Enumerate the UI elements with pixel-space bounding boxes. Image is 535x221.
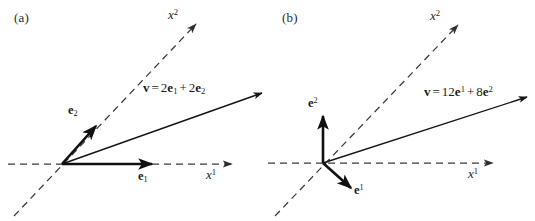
panel-a-diagram	[0, 0, 267, 221]
vector-v-line	[62, 93, 262, 164]
axis-label-x2: x2	[430, 9, 440, 22]
vector-equation-a: v=2e1+2e2	[143, 81, 205, 96]
basis-label-e1: e1	[354, 184, 364, 197]
basis-label-e2-sub: 2	[74, 109, 78, 118]
vector-v-line	[323, 97, 527, 163]
plus-sign: +	[465, 84, 476, 99]
vector-symbol-v: v	[143, 80, 150, 95]
basis-label-e1-sup: 1	[360, 183, 364, 192]
basis-label-e2-sup: 2	[314, 96, 318, 105]
axis-label-x1-sup: 1	[474, 166, 478, 176]
vector-equation-b: v=12e1+8e2	[424, 85, 493, 98]
vector-basis-figure: (a)	[0, 0, 535, 221]
basis-label-e2: e2	[68, 104, 78, 119]
basis-label-e1-sub: 1	[144, 175, 148, 184]
axis-label-x2: x2	[168, 8, 178, 21]
axis-label-x1: x1	[206, 168, 216, 181]
axis-label-x1-sup: 1	[212, 167, 216, 177]
panel-b-diagram	[268, 0, 535, 221]
axis-label-x2-sup: 2	[174, 7, 178, 17]
equals-sign: =	[431, 84, 442, 99]
basis-vector-e1-line	[323, 163, 351, 188]
basis-label-e2: e2	[308, 97, 318, 110]
plus-sign: +	[177, 80, 188, 95]
vector-symbol-v: v	[424, 84, 431, 99]
equals-sign: =	[150, 80, 161, 95]
term-2-sub: 2	[201, 86, 205, 96]
axis-label-x1: x1	[468, 167, 478, 180]
panel-b: (b)	[268, 0, 535, 221]
term-2-sup: 2	[489, 84, 493, 94]
term-1-coefficient: 12	[442, 84, 455, 99]
axis-label-x2-sup: 2	[436, 8, 440, 18]
basis-label-e1: e1	[138, 170, 148, 185]
panel-a: (a)	[0, 0, 267, 221]
axis-x2-line	[14, 24, 196, 216]
axis-x2-line	[275, 25, 458, 216]
